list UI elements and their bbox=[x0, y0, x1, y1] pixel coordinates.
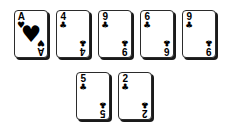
clubs-suit-icon: ♣ bbox=[121, 83, 129, 92]
clubs-suit-icon: ♣ bbox=[99, 100, 107, 109]
clubs-suit-icon: ♣ bbox=[59, 21, 67, 30]
card-bottom-right-index: 2♣ bbox=[141, 100, 149, 118]
clubs-suit-icon: ♣ bbox=[143, 21, 151, 30]
playing-card[interactable]: 2♣2♣ bbox=[118, 72, 152, 120]
playing-card[interactable]: 9♣9♣ bbox=[182, 10, 216, 58]
card-bottom-right-index: 9♣ bbox=[205, 38, 213, 56]
card-bottom-right-index: 5♣ bbox=[99, 100, 107, 118]
playing-card[interactable]: A♥A♥♥ bbox=[14, 10, 48, 58]
card-table: A♥A♥♥4♣4♣9♣9♣6♣6♣9♣9♣ 5♣5♣2♣2♣ bbox=[0, 0, 229, 128]
clubs-suit-icon: ♣ bbox=[141, 100, 149, 109]
playing-card[interactable]: 4♣4♣ bbox=[56, 10, 90, 58]
clubs-suit-icon: ♣ bbox=[79, 38, 87, 47]
clubs-suit-icon: ♣ bbox=[101, 21, 109, 30]
card-top-left-index: 4♣ bbox=[59, 12, 67, 30]
card-row-bottom: 5♣5♣2♣2♣ bbox=[76, 72, 152, 120]
card-top-left-index: 5♣ bbox=[79, 74, 87, 92]
clubs-suit-icon: ♣ bbox=[205, 38, 213, 47]
card-top-left-index: 6♣ bbox=[143, 12, 151, 30]
card-row-top: A♥A♥♥4♣4♣9♣9♣6♣6♣9♣9♣ bbox=[14, 10, 216, 58]
card-bottom-right-index: 4♣ bbox=[79, 38, 87, 56]
card-top-left-index: 2♣ bbox=[121, 74, 129, 92]
card-bottom-right-index: 9♣ bbox=[121, 38, 129, 56]
clubs-suit-icon: ♣ bbox=[121, 38, 129, 47]
clubs-suit-icon: ♣ bbox=[185, 21, 193, 30]
card-top-left-index: 9♣ bbox=[185, 12, 193, 30]
clubs-suit-icon: ♣ bbox=[163, 38, 171, 47]
card-bottom-right-index: 6♣ bbox=[163, 38, 171, 56]
playing-card[interactable]: 9♣9♣ bbox=[98, 10, 132, 58]
playing-card[interactable]: 5♣5♣ bbox=[76, 72, 110, 120]
card-top-left-index: 9♣ bbox=[101, 12, 109, 30]
clubs-suit-icon: ♣ bbox=[79, 83, 87, 92]
playing-card[interactable]: 6♣6♣ bbox=[140, 10, 174, 58]
hearts-center-suit-icon: ♥ bbox=[15, 23, 47, 46]
